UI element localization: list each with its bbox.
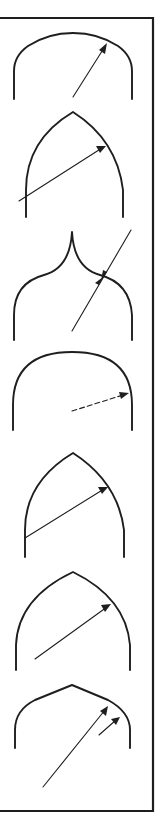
arch-four-centred: Four-centred arch [15,685,130,787]
arch-outline [25,453,124,557]
arrowhead-icon [96,146,106,153]
radius-arrow-line-dashed [72,395,123,411]
arch-outline [26,112,123,217]
radius-arrow-line [25,489,104,538]
arch-outline [13,352,132,430]
arch-types-diagram: Segmental arch Pointed arch Ogee arch Se… [0,0,166,837]
arch-outline [14,232,132,340]
radius-arrow-line [72,230,131,331]
arch-semicircular: Semicircular arch [13,352,132,430]
arch-drop: Drop arch [16,572,130,670]
arrowhead-icon [99,43,107,54]
arch-segmental: Segmental arch [14,33,132,99]
arch-outline [14,33,132,99]
frame-border [0,18,153,811]
arrowhead-icon [119,392,129,399]
arch-ogee: Ogee arch [14,230,132,340]
arch-outline [16,572,130,670]
arch-pointed: Pointed arch [19,112,123,217]
radius-arrow-line-short [99,720,116,735]
radius-arrow-line [73,48,104,97]
radius-arrow-line [43,710,105,787]
radius-arrow-line [35,607,107,659]
arch-outline [15,685,130,748]
arch-equilateral: Equilateral arch [25,453,124,557]
arrowhead-icon [98,487,108,494]
